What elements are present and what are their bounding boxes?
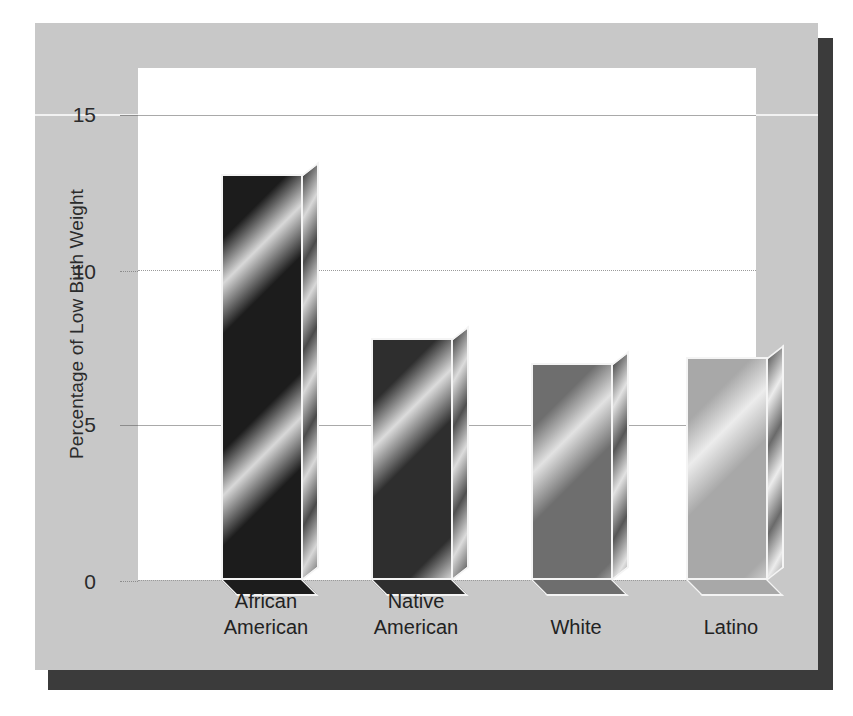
bars — [138, 68, 756, 580]
x-axis-category-label: Latino — [704, 614, 759, 640]
x-axis-labels: AfricanAmericanNativeAmericanWhiteLatino — [138, 588, 756, 650]
x-axis-category-line: American — [224, 614, 308, 640]
bar-front-face — [531, 363, 613, 580]
y-axis-tick: 15 — [120, 115, 138, 116]
x-axis-category-line: White — [550, 614, 601, 640]
bar-front-face — [686, 357, 768, 580]
bar-side-face — [768, 344, 784, 580]
y-axis-tick: 5 — [120, 425, 138, 426]
x-axis-category-label: NativeAmerican — [374, 588, 458, 640]
y-axis-tick: 10 — [120, 271, 138, 272]
x-axis-category-line: Latino — [704, 614, 759, 640]
x-axis-category-label: White — [550, 614, 601, 640]
y-axis-tick-label: 5 — [84, 413, 96, 437]
bar-front-face — [371, 338, 453, 580]
x-axis-category-label: AfricanAmerican — [224, 588, 308, 640]
x-axis-category-line: American — [374, 614, 458, 640]
plot-area: 051015 — [138, 68, 756, 580]
bar-front-face — [221, 174, 303, 580]
y-axis-title: Percentage of Low Birth Weight — [64, 68, 90, 580]
y-axis-tick: 0 — [120, 581, 138, 582]
bar[interactable] — [371, 338, 453, 580]
bar[interactable] — [531, 363, 613, 580]
y-axis-tick-label: 15 — [73, 103, 96, 127]
bar-chart-figure: Percentage of Low Birth Weight 051015 Af… — [0, 0, 853, 716]
bar[interactable] — [686, 357, 768, 580]
x-axis-category-line: Native — [374, 588, 458, 614]
bar[interactable] — [221, 174, 303, 580]
bar-side-face — [453, 325, 469, 580]
bar-side-face — [303, 161, 319, 580]
y-axis-tick-label: 0 — [84, 570, 96, 594]
bar-side-face — [613, 350, 629, 580]
y-axis-tick-label: 10 — [73, 260, 96, 284]
x-axis-category-line: African — [224, 588, 308, 614]
